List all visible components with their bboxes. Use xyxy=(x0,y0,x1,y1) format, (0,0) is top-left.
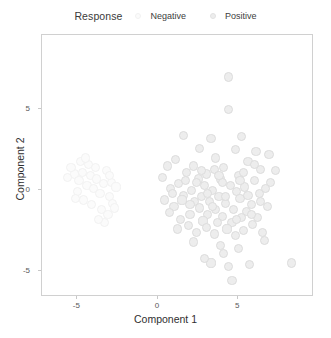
data-point xyxy=(189,237,198,246)
data-point xyxy=(168,189,177,198)
data-point xyxy=(179,131,188,140)
legend-label-negative: Negative xyxy=(151,11,187,21)
data-point xyxy=(235,176,244,185)
data-point xyxy=(63,173,72,182)
data-point xyxy=(260,236,269,245)
data-point xyxy=(110,203,119,212)
data-point xyxy=(187,186,196,195)
y-tick-mark xyxy=(38,108,41,109)
data-point xyxy=(251,147,260,156)
data-point xyxy=(192,178,201,187)
data-point xyxy=(224,262,233,271)
data-point xyxy=(231,231,240,240)
data-point xyxy=(206,134,215,143)
y-axis-label: Component 2 xyxy=(14,0,28,338)
legend: Response Negative Positive xyxy=(0,6,331,26)
data-points-layer xyxy=(42,35,312,295)
data-point xyxy=(231,145,240,154)
scatter-plot-figure: Response Negative Positive -505-505 Comp… xyxy=(0,0,331,338)
data-point xyxy=(195,144,204,153)
data-point xyxy=(165,208,174,217)
data-point xyxy=(247,210,256,219)
x-axis-label: Component 1 xyxy=(0,313,331,325)
x-tick-label: 0 xyxy=(155,301,159,310)
data-point xyxy=(287,258,296,267)
data-point xyxy=(243,191,252,200)
circle-marker-icon xyxy=(132,10,145,23)
data-point xyxy=(222,224,231,233)
data-point xyxy=(177,195,186,204)
data-point xyxy=(87,200,96,209)
data-point xyxy=(239,226,248,235)
data-point xyxy=(66,163,75,172)
data-point xyxy=(261,184,270,193)
data-point xyxy=(229,205,238,214)
data-point xyxy=(245,260,254,269)
data-point xyxy=(224,105,233,114)
circle-marker-icon xyxy=(206,10,219,23)
data-point xyxy=(184,221,193,230)
data-point xyxy=(192,228,201,237)
data-point xyxy=(202,223,211,232)
x-tick-label: 5 xyxy=(235,301,239,310)
data-point xyxy=(250,176,259,185)
data-point xyxy=(111,182,120,191)
data-point xyxy=(94,215,103,224)
data-point xyxy=(232,215,241,224)
data-point xyxy=(271,166,280,175)
data-point xyxy=(219,249,228,258)
data-point xyxy=(81,153,90,162)
data-point xyxy=(163,161,172,170)
data-point xyxy=(264,150,273,159)
data-point xyxy=(237,132,246,141)
legend-key-negative[interactable]: Negative xyxy=(132,10,187,23)
data-point xyxy=(173,224,182,233)
data-point xyxy=(171,155,180,164)
data-point xyxy=(158,173,167,182)
x-tick-mark xyxy=(76,296,77,299)
x-tick-mark xyxy=(237,296,238,299)
legend-title: Response xyxy=(74,10,122,22)
data-point xyxy=(181,176,190,185)
data-point xyxy=(95,189,104,198)
legend-key-positive[interactable]: Positive xyxy=(206,10,257,23)
y-tick-mark xyxy=(38,189,41,190)
data-point xyxy=(211,153,220,162)
y-tick-mark xyxy=(38,270,41,271)
data-point xyxy=(160,195,169,204)
data-point xyxy=(213,218,222,227)
data-point xyxy=(224,72,233,81)
data-point xyxy=(227,276,236,285)
data-point xyxy=(234,244,243,253)
data-point xyxy=(248,220,257,229)
data-point xyxy=(200,254,209,263)
data-point xyxy=(91,163,100,172)
data-point xyxy=(214,171,223,180)
x-tick-label: -5 xyxy=(73,301,80,310)
data-point xyxy=(210,229,219,238)
legend-label-positive: Positive xyxy=(225,11,257,21)
plot-panel xyxy=(41,34,313,296)
x-tick-mark xyxy=(157,296,158,299)
data-point xyxy=(185,200,194,209)
data-point xyxy=(250,160,259,169)
data-point xyxy=(185,210,194,219)
